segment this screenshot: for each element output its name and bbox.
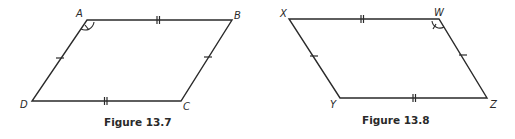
figure-13-7: A B C D Figure 13.7: [20, 8, 241, 128]
vertex-label-z: Z: [489, 99, 498, 110]
figure-13-8: X W Z Y Figure 13.8: [279, 7, 498, 126]
vertex-label-b: B: [234, 10, 241, 21]
vertex-label-y: Y: [330, 99, 337, 110]
parallelogram-xwzy: [289, 19, 487, 98]
vertex-label-d: D: [20, 99, 28, 110]
vertex-label-c: C: [183, 101, 190, 112]
figure-caption: Figure 13.7: [104, 116, 172, 128]
parallelogram-abcd: [32, 20, 232, 101]
vertex-label-w: W: [434, 7, 445, 18]
diagram-canvas: A B C D Figure 13.7 X W Z Y Figure 13.8: [0, 0, 515, 139]
vertex-label-x: X: [279, 8, 288, 19]
figure-caption: Figure 13.8: [362, 114, 430, 126]
vertex-label-a: A: [75, 8, 83, 19]
